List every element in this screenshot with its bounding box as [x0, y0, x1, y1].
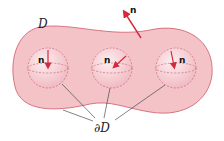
sphere-left: n [28, 48, 68, 88]
diagram-canvas: n n n n D ∂D [0, 0, 224, 141]
sphere-middle: n [92, 48, 132, 88]
svg-text:n: n [179, 55, 185, 65]
svg-text:n: n [38, 55, 44, 65]
outer-normal-label: n [130, 5, 136, 15]
region-label: D [37, 17, 48, 31]
sphere-right: n [156, 48, 196, 88]
svg-text:n: n [104, 55, 110, 65]
boundary-label: ∂D [94, 121, 110, 135]
